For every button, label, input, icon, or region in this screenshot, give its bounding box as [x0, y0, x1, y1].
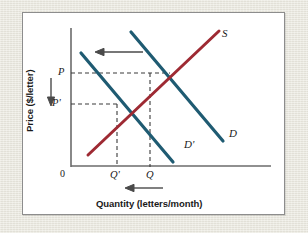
supply-curve-label: S [222, 28, 228, 39]
origin-label: 0 [60, 169, 65, 179]
price-tick-label: P [58, 67, 64, 78]
chart-panel [22, 12, 285, 215]
quantity-shifted-tick-label: Q' [110, 170, 120, 181]
y-axis-title: Price ($/letter) [25, 51, 35, 151]
figure-root: Price ($/letter) Quantity (letters/month… [0, 0, 308, 233]
demand-curve-label: D [229, 128, 237, 139]
demand-shifted-curve-label: D' [184, 139, 194, 150]
x-axis-title: Quantity (letters/month) [96, 199, 202, 209]
quantity-tick-label: Q [146, 170, 154, 181]
price-shifted-tick-label: P' [52, 98, 61, 109]
